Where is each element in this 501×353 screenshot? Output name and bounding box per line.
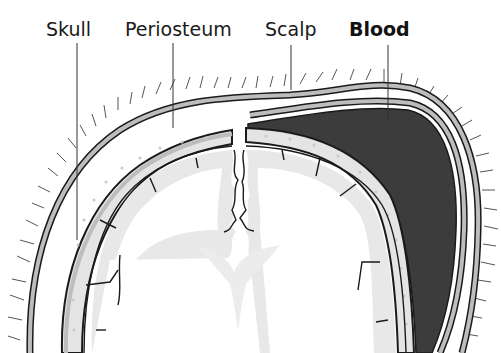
head-cross-section-diagram — [0, 0, 501, 353]
